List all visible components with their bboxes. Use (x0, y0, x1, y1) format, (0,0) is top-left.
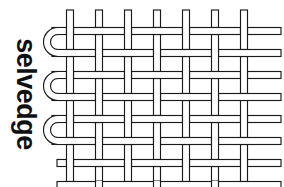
warp-over-weft-patch (212, 93, 218, 101)
weft-over-warp-patch (182, 50, 190, 56)
warp-over-weft-patch (125, 27, 131, 35)
weft-over-warp-patch (182, 94, 190, 100)
warp-thread-segment (212, 10, 219, 28)
warp-over-weft-patch (96, 137, 102, 145)
warp-over-weft-patch (183, 159, 189, 167)
warp-over-weft-patch (125, 115, 131, 123)
weft-over-warp-patch (124, 50, 132, 56)
weft-over-warp-patch (66, 50, 74, 56)
warp-over-weft-patch (183, 27, 189, 35)
weft-over-warp-patch (153, 72, 161, 78)
weft-over-warp-patch (66, 182, 74, 187)
weft-over-warp-patch (211, 28, 219, 34)
warp-over-weft-patch (241, 71, 247, 79)
warp-over-weft-patch (96, 93, 102, 101)
warp-thread-segment (96, 10, 103, 28)
weft-over-warp-patch (95, 28, 103, 34)
weft-over-warp-patch (66, 94, 74, 100)
selvedge-weave-figure: selvedge (0, 0, 284, 187)
warp-over-weft-patch (212, 49, 218, 57)
weave-diagram-svg (0, 0, 284, 187)
weft-over-warp-patch (211, 116, 219, 122)
warp-over-weft-patch (67, 115, 73, 123)
warp-thread-segment (212, 167, 219, 182)
warp-over-weft-patch (183, 115, 189, 123)
weft-over-warp-patch (240, 94, 248, 100)
warp-over-weft-patch (241, 159, 247, 167)
weft-over-warp-patch (240, 50, 248, 56)
weft-over-warp-patch (66, 138, 74, 144)
weft-over-warp-patch (95, 160, 103, 166)
warp-over-weft-patch (67, 159, 73, 167)
warp-over-weft-patch (154, 49, 160, 57)
weft-over-warp-patch (153, 160, 161, 166)
warp-thread-segment (154, 167, 161, 182)
weft-over-warp-patch (124, 138, 132, 144)
weft-over-warp-patch (211, 72, 219, 78)
warp-over-weft-patch (241, 27, 247, 35)
warp-over-weft-patch (212, 137, 218, 145)
warp-over-weft-patch (212, 181, 218, 187)
warp-over-weft-patch (96, 181, 102, 187)
weft-over-warp-patch (182, 182, 190, 187)
weft-over-warp-patch (124, 182, 132, 187)
warp-over-weft-patch (125, 71, 131, 79)
warp-over-weft-patch (96, 49, 102, 57)
weft-over-warp-patch (182, 138, 190, 144)
warp-thread-segment (96, 167, 103, 182)
weft-over-warp-patch (240, 138, 248, 144)
weft-over-warp-patch (95, 116, 103, 122)
warp-over-weft-patch (67, 71, 73, 79)
warp-over-weft-patch (125, 159, 131, 167)
warp-over-weft-patch (241, 115, 247, 123)
warp-over-weft-patch (154, 93, 160, 101)
weft-over-warp-patch (240, 182, 248, 187)
warp-over-weft-patch (67, 27, 73, 35)
weft-over-warp-patch (124, 94, 132, 100)
warp-over-weft-patch (183, 71, 189, 79)
warp-over-weft-patch (154, 181, 160, 187)
weft-over-warp-patch (211, 160, 219, 166)
weft-over-warp-patch (95, 72, 103, 78)
weft-over-warp-patch (153, 28, 161, 34)
weft-over-warp-patch (153, 116, 161, 122)
warp-over-weft-patch (154, 137, 160, 145)
warp-thread-segment (154, 10, 161, 28)
